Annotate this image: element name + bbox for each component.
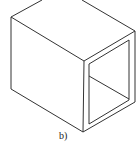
- hollow-tube-drawing: [0, 0, 138, 150]
- left-bottom-diagonal: [11, 89, 83, 132]
- top-left-edge: [11, 0, 42, 17]
- left-top-diagonal: [11, 17, 84, 61]
- figure-label: b): [59, 130, 67, 141]
- front-outer-frame: [83, 31, 135, 132]
- front-inner-opening: [89, 40, 129, 124]
- top-right-edge: [82, 0, 135, 31]
- interior-edge: [89, 76, 129, 99]
